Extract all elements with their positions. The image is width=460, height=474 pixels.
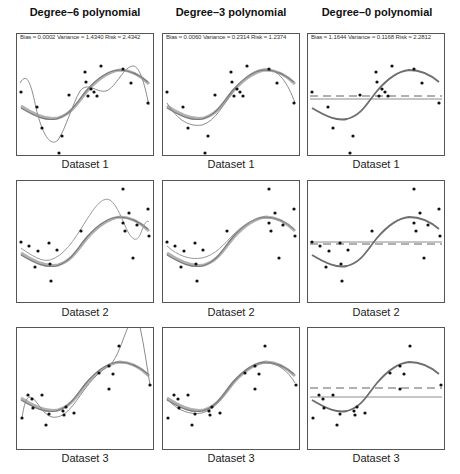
- dataset-label: Dataset 2: [162, 306, 300, 318]
- dataset-label: Dataset 1: [307, 158, 445, 170]
- panel-degree6-dataset3: [16, 327, 154, 450]
- panel-degree6-dataset1: Bias ≈ 0.0002 Variance ≈ 1.4340 Risk ≈ 2…: [16, 33, 154, 156]
- dataset-label: Dataset 2: [16, 306, 154, 318]
- stats-degree-6: Bias ≈ 0.0002 Variance ≈ 1.4340 Risk ≈ 2…: [20, 34, 140, 40]
- column-title-degree-0: Degree–0 polynomial: [302, 6, 452, 18]
- dataset-label: Dataset 3: [307, 452, 445, 464]
- panel-degree0-dataset3: [307, 327, 445, 450]
- dataset-label: Dataset 3: [16, 452, 154, 464]
- panel-degree0-dataset2: [307, 180, 445, 303]
- dataset-label: Dataset 3: [162, 452, 300, 464]
- panel-degree6-dataset2: [16, 180, 154, 303]
- panel-degree3-dataset2: [162, 180, 300, 303]
- panel-degree3-dataset1: Bias ≈ 0.0060 Variance ≈ 0.2314 Risk ≈ 1…: [162, 33, 300, 156]
- panel-degree0-dataset1: Bias ≈ 1.1644 Variance ≈ 0.1168 Risk ≈ 2…: [307, 33, 445, 156]
- stats-degree-3: Bias ≈ 0.0060 Variance ≈ 0.2314 Risk ≈ 1…: [166, 34, 286, 40]
- panel-degree3-dataset3: [162, 327, 300, 450]
- dataset-label: Dataset 1: [162, 158, 300, 170]
- dataset-label: Dataset 2: [307, 306, 445, 318]
- dataset-label: Dataset 1: [16, 158, 154, 170]
- column-title-degree-6: Degree–6 polynomial: [10, 6, 160, 18]
- stats-degree-0: Bias ≈ 1.1644 Variance ≈ 0.1168 Risk ≈ 2…: [311, 34, 431, 40]
- column-title-degree-3: Degree–3 polynomial: [156, 6, 306, 18]
